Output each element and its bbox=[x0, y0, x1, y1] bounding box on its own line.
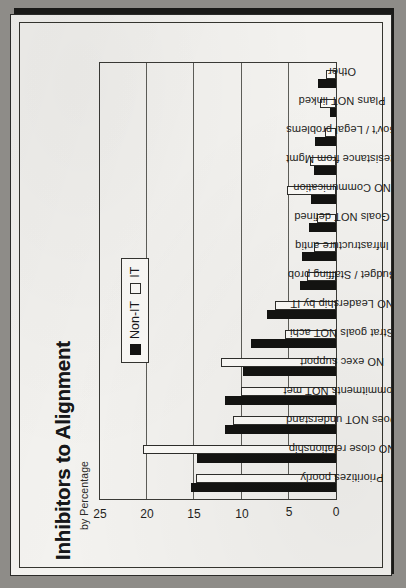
bar-non-it bbox=[225, 425, 336, 434]
category-label-text: Infrastructure antiq bbox=[295, 240, 389, 252]
bar-non-it bbox=[267, 310, 336, 319]
y-tick-label: 15 bbox=[188, 508, 201, 522]
bar-non-it bbox=[315, 137, 336, 146]
y-tick-label: 10 bbox=[235, 508, 248, 522]
category-label-text: Does NOT understand bbox=[286, 414, 392, 426]
chart-subtitle: by Percentage bbox=[78, 260, 90, 530]
category-label-text: NO close relationship bbox=[289, 443, 392, 455]
category-label-text: Gov't / Legal problems bbox=[286, 124, 392, 136]
y-tick-label: 25 bbox=[93, 508, 106, 522]
category-label-text: Plans NOT linked bbox=[299, 95, 386, 107]
bar-group bbox=[100, 65, 336, 94]
figure-wrapper: Inhibitors to Alignment by Percentage 05… bbox=[11, 15, 392, 576]
bar-non-it bbox=[309, 223, 336, 232]
category-label-text: Prioritizes poorly bbox=[300, 472, 383, 484]
bar-non-it bbox=[251, 339, 336, 348]
category-label-text: Strat goals NOT achi bbox=[290, 327, 392, 339]
bar-non-it bbox=[302, 252, 336, 261]
legend-swatch-non-it bbox=[130, 344, 141, 355]
category-label-text: NO exec support bbox=[300, 356, 384, 368]
legend-item-non-it: Non-IT bbox=[128, 301, 142, 355]
bar-non-it bbox=[314, 166, 336, 175]
category-label-text: Budget / Staffing prob bbox=[288, 269, 392, 281]
category-label-text: NO Leadership by IT bbox=[290, 298, 392, 310]
bar-non-it bbox=[318, 79, 336, 88]
chart-title-block: Inhibitors to Alignment by Percentage bbox=[53, 260, 90, 560]
legend-label-it: IT bbox=[128, 267, 142, 278]
legend-swatch-it bbox=[130, 283, 141, 294]
bar-non-it bbox=[330, 108, 336, 117]
bar-non-it bbox=[311, 195, 336, 204]
category-label-text: Resistance from Mgmt bbox=[286, 153, 392, 165]
chart-title: Inhibitors to Alignment bbox=[53, 260, 74, 560]
bar-non-it bbox=[225, 396, 336, 405]
chart-legend: Non-IT IT bbox=[121, 258, 149, 363]
y-tick-label: 0 bbox=[333, 504, 340, 518]
bar-chart-figure: Inhibitors to Alignment by Percentage 05… bbox=[37, 26, 367, 566]
scanned-page: Inhibitors to Alignment by Percentage 05… bbox=[10, 14, 392, 576]
category-label-text: Commitments NOT met bbox=[283, 385, 392, 397]
category-label-text: Other bbox=[328, 66, 356, 78]
legend-label-non-it: Non-IT bbox=[128, 301, 142, 339]
y-tick-label: 5 bbox=[285, 504, 292, 518]
category-label-text: Goals NOT defined bbox=[294, 211, 390, 223]
y-tick-label: 20 bbox=[141, 508, 154, 522]
bar-non-it bbox=[243, 367, 336, 376]
bar-non-it bbox=[197, 454, 336, 463]
category-label-text: NO Communication bbox=[293, 182, 391, 194]
legend-item-it: IT bbox=[128, 267, 142, 294]
bar-non-it bbox=[300, 281, 336, 290]
